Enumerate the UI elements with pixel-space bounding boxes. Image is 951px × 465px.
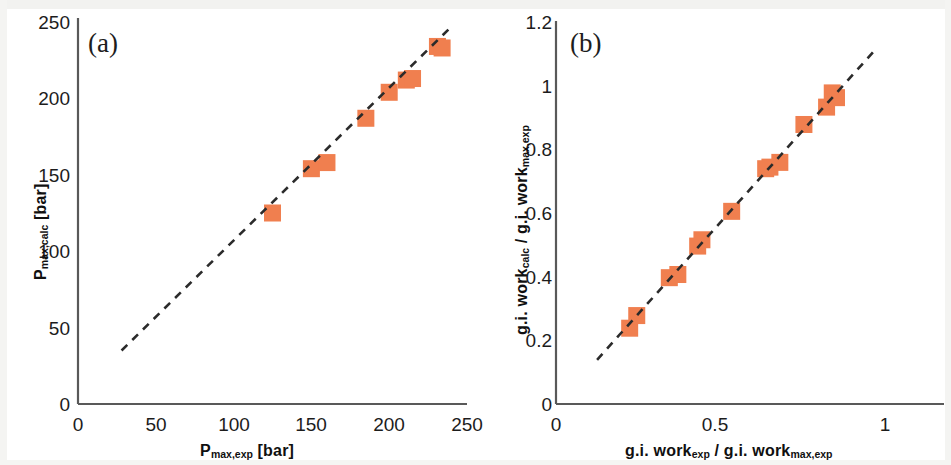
panel-letter-b: (b) xyxy=(570,28,601,59)
x-axis-title-a-sub: max,exp xyxy=(211,448,253,460)
x-tick-label: 100 xyxy=(204,414,264,436)
y-axis-title-a-sub: max,calc xyxy=(38,225,50,269)
y-axis-title-b: g.i. workcalc / g.i. workmax,exp xyxy=(513,125,531,335)
data-point-marker xyxy=(264,205,281,222)
scatter-plot-a xyxy=(0,0,478,465)
figure-two-panel-parity-plots: (a) 250 200 150 100 50 0 0 50 100 150 20… xyxy=(0,0,951,465)
chart-panel-b: (b) 1.2 1 0.8 0.6 0.4 0.2 0 0 0.5 1 g.i.… xyxy=(478,0,951,465)
x-axis-title-b-sub1: exp xyxy=(692,448,710,460)
y-axis-title-b-base2: g.i. work xyxy=(513,167,530,234)
y-axis-title-b-sub1: calc xyxy=(519,248,531,268)
x-tick-label: 150 xyxy=(281,414,341,436)
x-tick-label: 50 xyxy=(126,414,186,436)
panel-letter-a: (a) xyxy=(88,28,118,59)
y-axis-title-b-sep: / xyxy=(513,239,530,244)
x-tick-label: 1 xyxy=(855,414,915,436)
x-tick-label: 0 xyxy=(48,414,108,436)
x-axis-title-a-base: P xyxy=(200,442,211,459)
y-tick-label: 50 xyxy=(10,318,70,340)
y-axis-title-a: Pmax,calc [bar] xyxy=(32,184,50,280)
x-axis-title-b-sub2: max,exp xyxy=(790,448,832,460)
y-axis-title-b-base1: g.i. work xyxy=(513,268,530,335)
x-tick-label: 0.5 xyxy=(685,414,745,436)
y-axis-title-b-sub2: max,exp xyxy=(519,125,531,167)
y-axis-title-a-base: P xyxy=(32,269,49,280)
y-tick-label: 0 xyxy=(490,394,552,416)
x-axis-title-b-base1: g.i. work xyxy=(625,442,692,459)
chart-panel-a: (a) 250 200 150 100 50 0 0 50 100 150 20… xyxy=(0,0,478,465)
y-tick-label: 250 xyxy=(10,12,70,34)
x-axis-title-b-base2: g.i. work xyxy=(724,442,791,459)
x-axis-title-a: Pmax,exp [bar] xyxy=(200,442,294,460)
x-tick-label: 200 xyxy=(359,414,419,436)
y-tick-label: 0 xyxy=(10,394,70,416)
x-axis-title-b-sep: / xyxy=(714,442,719,459)
parity-dashed-line xyxy=(122,27,452,351)
y-tick-label: 1 xyxy=(490,76,552,98)
data-point-group xyxy=(264,38,451,222)
x-axis-title-b: g.i. workexp / g.i. workmax,exp xyxy=(625,442,833,460)
y-axis-title-a-unit: [bar] xyxy=(32,184,49,221)
x-tick-label: 0 xyxy=(526,414,586,436)
y-tick-label: 1.2 xyxy=(490,12,552,34)
data-point-marker xyxy=(318,154,335,171)
y-tick-label: 200 xyxy=(10,88,70,110)
data-point-marker xyxy=(404,70,421,87)
data-point-marker xyxy=(693,231,710,248)
x-axis-title-a-unit: [bar] xyxy=(258,442,295,459)
